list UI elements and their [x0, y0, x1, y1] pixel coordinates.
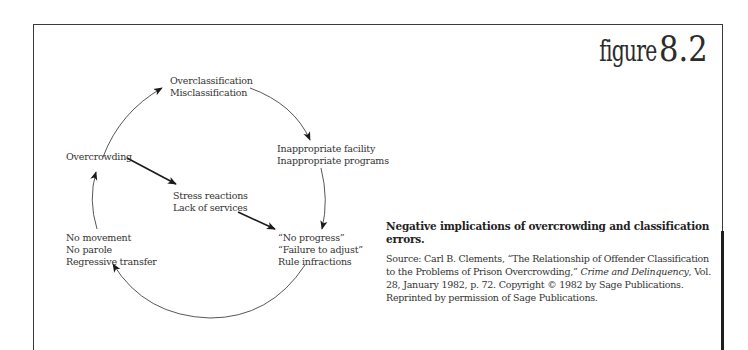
node-line: No parole: [66, 244, 157, 256]
source-journal: Crime and Delinquency: [580, 266, 688, 277]
figure-caption: Negative implications of overcrowding an…: [386, 220, 716, 304]
node-line: “Failure to adjust”: [278, 244, 363, 256]
node-no-movement: No movement No parole Regressive transfe…: [66, 232, 157, 268]
node-line: Inappropriate facility: [277, 143, 389, 155]
arrow-nomovement-to-overcrowding: [92, 172, 97, 229]
node-line: “No progress”: [278, 232, 363, 244]
node-no-progress: “No progress” “Failure to adjust” Rule i…: [278, 232, 363, 268]
node-line: Overcrowding: [66, 151, 132, 163]
node-line: No movement: [66, 232, 157, 244]
node-stress: Stress reactions Lack of services: [173, 190, 248, 214]
node-line: Misclassification: [170, 87, 253, 99]
arrow-overcrowding-to-overclassification: [103, 88, 162, 157]
arrow-overclassification-to-inappropriate: [250, 88, 310, 140]
node-line: Stress reactions: [173, 190, 248, 202]
arrow-stress-to-noprogress: [238, 212, 275, 229]
node-line: Regressive transfer: [66, 256, 157, 268]
node-line: Inappropriate programs: [277, 155, 389, 167]
node-inappropriate: Inappropriate facility Inappropriate pro…: [277, 143, 389, 167]
caption-source: Source: Carl B. Clements, “The Relations…: [386, 252, 716, 304]
arrow-inappropriate-to-noprogress: [321, 168, 325, 229]
node-overcrowding: Overcrowding: [66, 151, 132, 163]
arrow-noprogress-to-nomovement: [113, 264, 305, 318]
node-overclassification: Overclassification Misclassification: [170, 75, 253, 99]
node-line: Rule infractions: [278, 256, 363, 268]
node-line: Lack of services: [173, 202, 248, 214]
node-line: Overclassification: [170, 75, 253, 87]
caption-title: Negative implications of overcrowding an…: [386, 220, 716, 246]
arrow-overcrowding-to-stress: [127, 158, 176, 184]
